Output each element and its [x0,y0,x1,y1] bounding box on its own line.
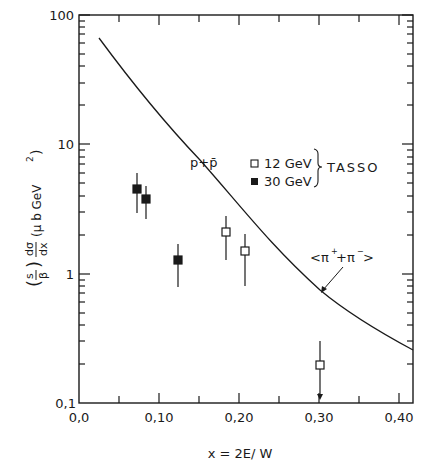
y-label-dx: dx [37,242,50,256]
ppbar-annotation: p+p̄ [190,155,217,170]
chart-canvas: 100 10 1 0,1 0,0 0,10 0,20 0,30 0,40 x =… [0,0,431,469]
x-tick-label-0-40: 0,40 [385,410,414,425]
legend-label-12gev: 12 GeV [264,156,312,171]
x-axis-ticks-top [119,15,399,25]
x-tick-label-0: 0,0 [69,410,90,425]
legend: 12 GeV 30 GeV TASSO [251,149,380,189]
x-axis-ticks-bottom [119,393,399,403]
legend-open-square-icon [251,160,258,167]
x-tick-label-0-30: 0,30 [305,410,334,425]
y-tick-label-10: 10 [57,137,74,152]
y-axis-ticks-left [79,15,90,364]
pion-annotation: <π + +π − > [310,247,374,293]
data-point [222,228,230,236]
x-axis-label: x = 2E/ W [208,446,273,461]
y-label-units-close: ) [28,150,44,155]
y-label-beta: β [37,272,50,279]
data-point [316,361,324,369]
data-point [142,195,150,203]
x-tick-label-0-10: 0,10 [145,410,174,425]
x-tick-label-0-20: 0,20 [225,410,254,425]
y-label-units-sup: 2 [25,156,35,162]
legend-brace [314,149,322,187]
y-tick-label-100: 100 [49,8,74,23]
y-label-dsigma: dσ [23,242,36,256]
upper-limit-arrow-icon [317,394,323,400]
y-axis-ticks-right [402,15,413,364]
y-axis-label: ( s β ) dσ dx (μ b GeV 2 ) [23,150,50,287]
svg-text:<π: <π [310,250,329,265]
data-point [174,256,182,264]
y-label-paren-close: ) [23,261,44,268]
legend-filled-square-icon [251,178,258,185]
y-tick-label-0-1: 0,1 [55,396,76,411]
y-label-s: s [23,273,36,279]
series-30gev [133,173,182,287]
plot-frame [79,15,413,403]
data-point [133,185,141,193]
legend-group-tasso: TASSO [326,160,380,175]
data-point [241,247,249,255]
y-tick-label-1: 1 [66,267,74,282]
legend-label-30gev: 30 GeV [264,174,312,189]
svg-text:>: > [363,250,374,265]
svg-text:+π: +π [336,250,355,265]
y-label-units: (μ b GeV [30,184,44,237]
y-label-paren-open: ( [23,280,44,287]
